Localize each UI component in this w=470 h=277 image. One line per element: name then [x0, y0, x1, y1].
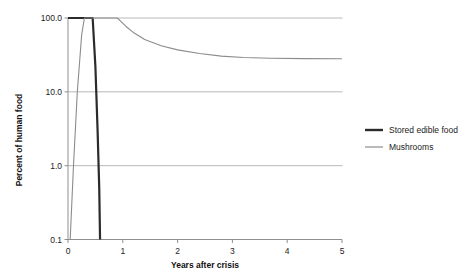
x-tick-label: 5 [340, 246, 345, 256]
chart-figure: 0.11.010.0100.0 012345 Years after crisi… [0, 0, 470, 277]
x-tick-label: 4 [285, 246, 290, 256]
y-gridlines [68, 18, 343, 166]
x-tick-label: 2 [175, 246, 180, 256]
chart-canvas: 0.11.010.0100.0 012345 Years after crisi… [0, 0, 470, 277]
series-line-mushrooms [70, 18, 342, 240]
chart-legend: Stored edible foodMushrooms [365, 125, 458, 152]
x-axis-title: Years after crisis [171, 260, 239, 270]
x-axis-ticks: 012345 [66, 240, 345, 256]
x-tick-label: 3 [230, 246, 235, 256]
legend-label: Mushrooms [389, 142, 433, 152]
legend-label: Stored edible food [389, 125, 458, 135]
data-series-group [68, 18, 342, 240]
y-tick-label: 0.1 [50, 235, 62, 245]
y-axis-ticks: 0.11.010.0100.0 [41, 13, 68, 245]
x-tick-label: 1 [120, 246, 125, 256]
x-tick-label: 0 [66, 246, 71, 256]
y-tick-label: 1.0 [50, 161, 62, 171]
y-tick-label: 10.0 [45, 87, 62, 97]
y-tick-label: 100.0 [41, 13, 63, 23]
y-axis-title: Percent of human food [14, 94, 24, 187]
series-line-stored-edible-food [68, 18, 100, 240]
